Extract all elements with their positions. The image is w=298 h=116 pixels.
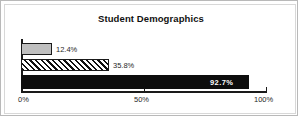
bar-chart: 12.4% 35.8% 92.7% 0% 50% 100% xyxy=(5,5,297,115)
bar-series-1[interactable] xyxy=(21,43,52,55)
x-axis-label-100: 100% xyxy=(254,95,273,104)
x-axis-label-0: 0% xyxy=(18,95,29,104)
chart-plot-area: Student Demographics 12.4% 35.8% 92.7% 0… xyxy=(4,4,296,114)
bar-value-label-series-3: 92.7% xyxy=(210,78,233,87)
x-axis-tick-100 xyxy=(266,87,267,92)
chart-frame: Student Demographics 12.4% 35.8% 92.7% 0… xyxy=(0,0,298,116)
bar-value-label-series-2: 35.8% xyxy=(113,61,134,70)
bar-series-2[interactable] xyxy=(21,59,109,71)
x-axis-label-50: 50% xyxy=(134,95,149,104)
bar-value-label-series-1: 12.4% xyxy=(56,45,77,54)
